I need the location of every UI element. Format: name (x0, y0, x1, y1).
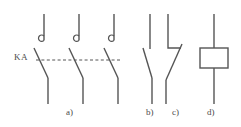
pole-1-blade (34, 48, 48, 78)
pole-3-blade (104, 48, 118, 78)
coil-symbol (200, 14, 228, 104)
figure-label-d: d) (207, 108, 215, 117)
figure-label-a: a) (66, 108, 73, 117)
contactor-symbols-drawing (0, 0, 241, 127)
pole-2 (69, 14, 83, 104)
nc-contact-top-terminal-with-jog (168, 14, 181, 48)
no-contact-symbol (143, 14, 152, 104)
figure-label-c: c) (172, 108, 179, 117)
nc-contact-symbol (166, 14, 182, 104)
no-contact-blade (143, 48, 152, 78)
pole-2-blade (69, 48, 83, 78)
group-main-contacts (34, 14, 228, 104)
nc-contact-blade (166, 44, 182, 80)
figure-label-b: b) (146, 108, 154, 117)
coil-body-rect (200, 48, 228, 68)
pole-3 (104, 14, 118, 104)
linkage-label-ka: KA (14, 53, 28, 62)
schematic-canvas: KA a) b) c) d) (0, 0, 241, 127)
pole-1 (34, 14, 48, 104)
